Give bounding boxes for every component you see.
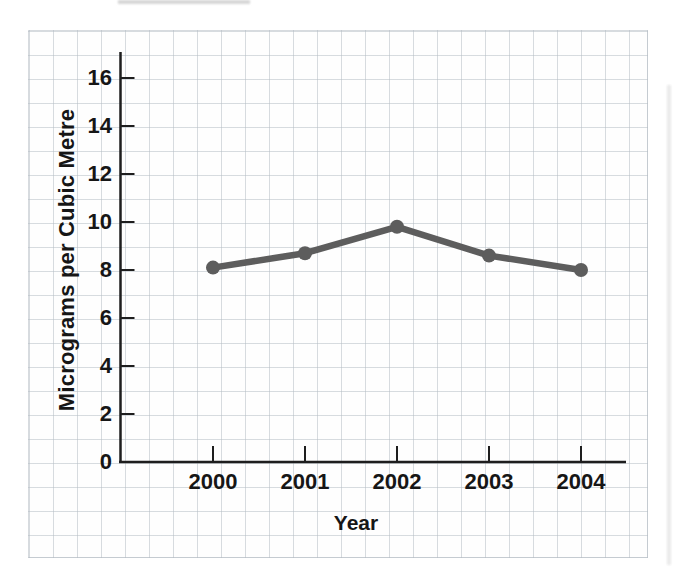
data-point bbox=[482, 249, 496, 263]
x-axis-title: Year bbox=[334, 511, 378, 535]
x-tick-label: 2003 bbox=[447, 470, 531, 494]
data-point bbox=[574, 263, 588, 277]
scan-artifact-right-edge bbox=[667, 85, 671, 565]
x-tick-label: 2002 bbox=[355, 470, 439, 494]
y-tick-label: 0 bbox=[0, 450, 112, 474]
y-axis-title: Micrograms per Cubic Metre bbox=[54, 109, 80, 411]
y-tick-label: 16 bbox=[0, 66, 112, 90]
scanned-chart-page: 0246810121416 20002001200220032004 Micro… bbox=[0, 0, 674, 577]
x-tick-label: 2000 bbox=[171, 470, 255, 494]
x-tick-label: 2001 bbox=[263, 470, 347, 494]
data-point bbox=[390, 220, 404, 234]
x-tick-label: 2004 bbox=[539, 470, 623, 494]
data-point bbox=[206, 261, 220, 275]
data-point bbox=[298, 246, 312, 260]
